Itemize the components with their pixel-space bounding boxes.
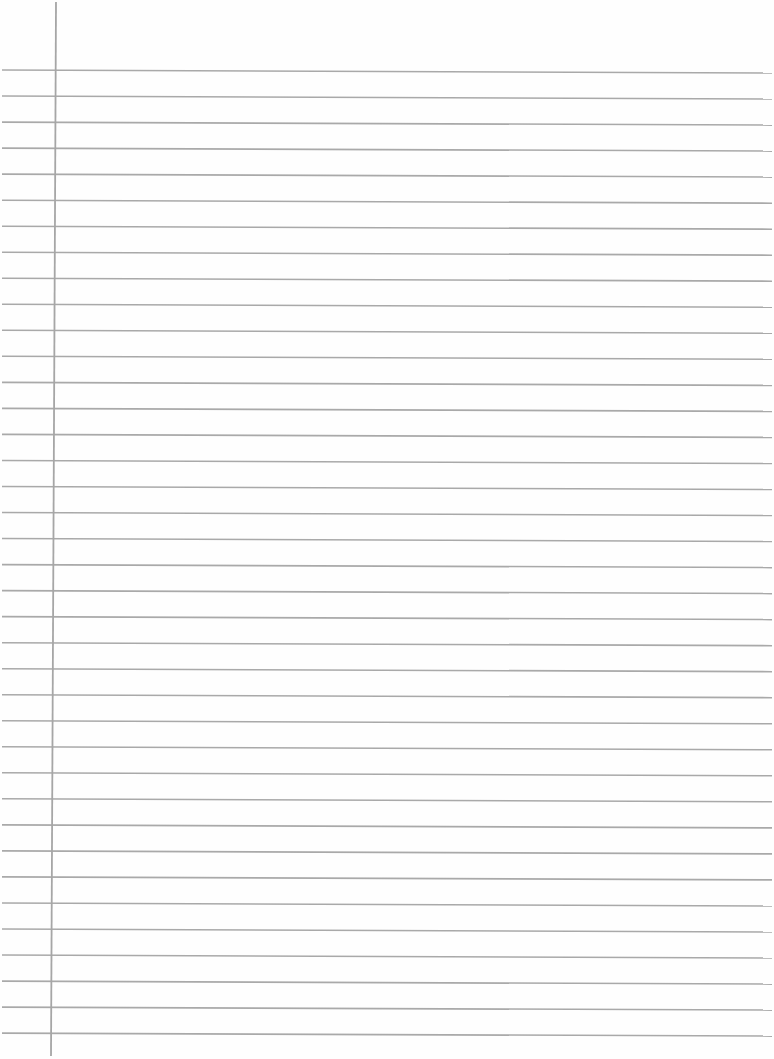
ruled-line xyxy=(2,252,772,255)
ruled-line xyxy=(2,70,772,73)
ruled-line xyxy=(2,1033,772,1036)
ruled-line xyxy=(2,643,772,646)
ruled-line xyxy=(2,695,772,698)
ruled-line xyxy=(2,799,772,802)
ruled-line xyxy=(2,981,772,984)
ruled-line xyxy=(2,851,772,854)
ruled-line xyxy=(2,382,772,385)
ruled-line xyxy=(2,356,772,359)
ruled-line xyxy=(2,304,772,307)
ruled-line xyxy=(2,96,772,99)
ruled-line xyxy=(2,955,772,958)
ruled-line xyxy=(2,539,772,542)
ruled-line xyxy=(2,1007,772,1010)
ruled-line xyxy=(2,330,772,333)
ruled-lines-canvas xyxy=(0,0,774,1059)
ruled-line xyxy=(2,773,772,776)
ruled-line xyxy=(2,669,772,672)
ruled-line xyxy=(2,617,772,620)
ruled-lines xyxy=(2,70,772,1036)
ruled-line xyxy=(2,565,772,568)
ruled-line xyxy=(2,148,772,151)
ruled-line xyxy=(2,200,772,203)
ruled-line xyxy=(2,929,772,932)
ruled-line xyxy=(2,877,772,880)
ruled-line xyxy=(2,408,772,411)
ruled-line xyxy=(2,825,772,828)
ruled-line xyxy=(2,226,772,229)
ruled-line xyxy=(2,591,772,594)
ruled-line xyxy=(2,487,772,490)
ruled-line xyxy=(2,747,772,750)
ruled-line xyxy=(2,122,772,125)
ruled-line xyxy=(2,174,772,177)
ruled-line xyxy=(2,903,772,906)
ruled-line xyxy=(2,434,772,437)
ruled-line xyxy=(2,721,772,724)
ruled-line xyxy=(2,278,772,281)
ruled-line xyxy=(2,513,772,516)
lined-paper-sheet xyxy=(0,0,774,1059)
margin-line xyxy=(51,2,56,1056)
ruled-line xyxy=(2,461,772,464)
